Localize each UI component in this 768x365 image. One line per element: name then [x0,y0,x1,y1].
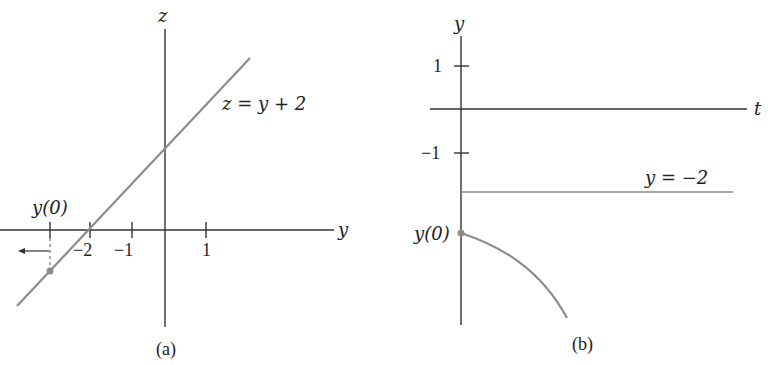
y0-label: y(0) [31,197,68,218]
caption-a: (a) [156,339,176,360]
y-axis-label: y [337,219,349,240]
panel-b: y t 1 −1 y = −2 y(0) (b) [413,13,762,355]
y-axis-label-b: y [453,13,465,34]
tick-label-1: 1 [202,240,211,260]
tick-label-1-b: 1 [433,56,442,76]
solution-curve [461,233,567,318]
t-axis-label: t [754,98,762,119]
tick-label-minus-1: −1 [114,240,133,260]
figure: z y −2 −1 1 y(0) z = y + 2 (a) y t 1 −1 [0,0,768,365]
y0-label-b: y(0) [413,223,450,244]
panel-a: z y −2 −1 1 y(0) z = y + 2 (a) [0,5,349,360]
tick-label-minus-1-b: −1 [421,143,440,163]
equilibrium-label: y = −2 [644,167,708,188]
y0-point-b [458,230,465,237]
y0-point [47,268,54,275]
arrowhead-icon [18,248,25,254]
caption-b: (b) [572,334,593,355]
line-label: z = y + 2 [221,93,306,114]
z-axis-label: z [157,5,168,26]
